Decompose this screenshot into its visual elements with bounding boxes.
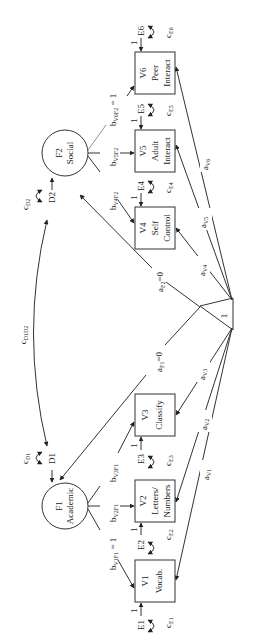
svg-text:Social: Social bbox=[65, 141, 75, 164]
svg-text:cE5: cE5 bbox=[163, 105, 174, 116]
svg-text:cE3: cE3 bbox=[163, 455, 174, 466]
loading-v4-label: bV4F2 bbox=[108, 192, 119, 210]
error-e4: 1 E4 cE4 bbox=[129, 181, 174, 206]
svg-text:1: 1 bbox=[129, 41, 139, 46]
constant-label: 1 bbox=[219, 314, 229, 319]
svg-text:E6: E6 bbox=[136, 26, 146, 36]
path-diagram: 1 aF2=0 aF1=0 aV6 aV5 aV4 aV3 aV2 aV1 F2… bbox=[0, 0, 259, 643]
indicator-v1: V1 Vocab. bbox=[135, 560, 175, 602]
svg-text:F1: F1 bbox=[54, 501, 64, 511]
svg-text:F2: F2 bbox=[54, 148, 64, 158]
svg-text:Interact: Interact bbox=[162, 59, 172, 87]
svg-text:Interact: Interact bbox=[162, 137, 172, 165]
svg-text:cE2: cE2 bbox=[163, 529, 174, 540]
svg-text:cE6: cE6 bbox=[163, 27, 174, 38]
loadings-f1 bbox=[88, 422, 134, 588]
indicator-v4: V4 Self Control bbox=[135, 207, 175, 249]
covariance-d1-d2-arc bbox=[34, 220, 48, 446]
svg-text:Adult: Adult bbox=[150, 140, 160, 161]
indicator-v2: V2 Letters/ Numbers bbox=[135, 480, 175, 522]
svg-text:D1: D1 bbox=[47, 453, 57, 464]
svg-text:V2: V2 bbox=[138, 496, 148, 507]
factor-f1: F1 Academic bbox=[42, 483, 88, 529]
error-e3: 1 E3 cE3 bbox=[129, 437, 174, 468]
error-e1: 1 E1 cE1 bbox=[129, 603, 174, 632]
svg-text:V1: V1 bbox=[140, 576, 150, 587]
svg-text:E1: E1 bbox=[136, 620, 146, 630]
svg-text:V4: V4 bbox=[138, 222, 148, 233]
error-e6: 1 E6 cE6 bbox=[129, 26, 174, 51]
svg-text:Control: Control bbox=[162, 214, 172, 242]
loading-v6-label: bV6F2 = 1 bbox=[108, 94, 119, 126]
svg-text:1: 1 bbox=[129, 119, 139, 124]
loading-v1-label: bV1F1 = 1 bbox=[108, 538, 119, 570]
svg-text:1: 1 bbox=[129, 609, 139, 614]
svg-text:Vocab.: Vocab. bbox=[154, 569, 164, 594]
indicator-v3: V3 Classify bbox=[135, 394, 175, 436]
svg-text:V5: V5 bbox=[138, 145, 148, 156]
svg-text:Academic: Academic bbox=[65, 488, 75, 524]
constant-triangle: 1 bbox=[200, 298, 233, 330]
indicator-v5: V5 Adult Interact bbox=[135, 130, 175, 172]
svg-text:Letters/: Letters/ bbox=[150, 487, 160, 515]
svg-text:E2: E2 bbox=[136, 540, 146, 550]
svg-text:Peer: Peer bbox=[150, 65, 160, 81]
svg-text:cE4: cE4 bbox=[163, 182, 174, 193]
factor-mean-paths bbox=[60, 195, 200, 480]
error-e5: 1 E5 cE5 bbox=[129, 104, 174, 129]
factor-mean-f2-label: aF2=0 bbox=[155, 272, 166, 292]
indicator-v6: V6 Peer Interact bbox=[135, 52, 175, 94]
disturbance-d2: D2 cD2 bbox=[20, 178, 57, 210]
svg-text:cD2: cD2 bbox=[20, 199, 31, 210]
svg-text:V6: V6 bbox=[138, 67, 148, 78]
svg-text:D2: D2 bbox=[47, 192, 57, 203]
covariance-label: cD1D2 bbox=[18, 326, 29, 345]
svg-text:cD1: cD1 bbox=[20, 453, 31, 464]
disturbance-d1: D1 cD1 bbox=[20, 452, 57, 482]
svg-text:cE1: cE1 bbox=[163, 617, 174, 628]
svg-text:E3: E3 bbox=[136, 454, 146, 464]
svg-text:E5: E5 bbox=[136, 104, 146, 114]
svg-text:Numbers: Numbers bbox=[162, 484, 172, 517]
factor-f2: F2 Social bbox=[42, 130, 88, 176]
factor-mean-f1-label: aF1=0 bbox=[154, 352, 165, 372]
loading-v5-label: bV5F2 bbox=[108, 148, 119, 166]
svg-text:V3: V3 bbox=[140, 409, 150, 420]
svg-text:1: 1 bbox=[129, 444, 139, 449]
svg-text:Self: Self bbox=[150, 221, 160, 236]
svg-text:1: 1 bbox=[129, 196, 139, 201]
loading-v3-label: bV3F1 bbox=[108, 464, 119, 482]
svg-text:Classify: Classify bbox=[154, 400, 164, 430]
error-e2: 1 E2 cE2 bbox=[129, 523, 174, 554]
svg-text:E4: E4 bbox=[136, 181, 146, 191]
loading-v2-label: bV2F1 bbox=[108, 504, 119, 522]
svg-text:1: 1 bbox=[129, 528, 139, 533]
